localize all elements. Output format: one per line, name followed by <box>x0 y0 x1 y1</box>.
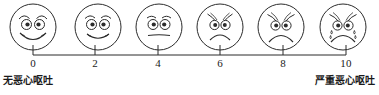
tick-label-0: 0 <box>30 57 36 70</box>
nausea-faces-rating-scale: 0 2 4 6 8 10 无恶心呕吐 严重恶心呕吐 <box>0 0 379 95</box>
tick-label-8: 8 <box>280 57 286 70</box>
tick-label-2: 2 <box>92 57 98 70</box>
anchor-label-row: 无恶心呕吐 严重恶心呕吐 <box>0 74 379 92</box>
anchor-label-right: 严重恶心呕吐 <box>315 74 375 88</box>
tick-label-6: 6 <box>217 57 223 70</box>
tick-label-4: 4 <box>155 57 161 70</box>
anchor-label-left: 无恶心呕吐 <box>3 74 53 88</box>
tick-label-row: 0 2 4 6 8 10 <box>0 57 379 73</box>
tick-label-10: 10 <box>340 57 351 70</box>
